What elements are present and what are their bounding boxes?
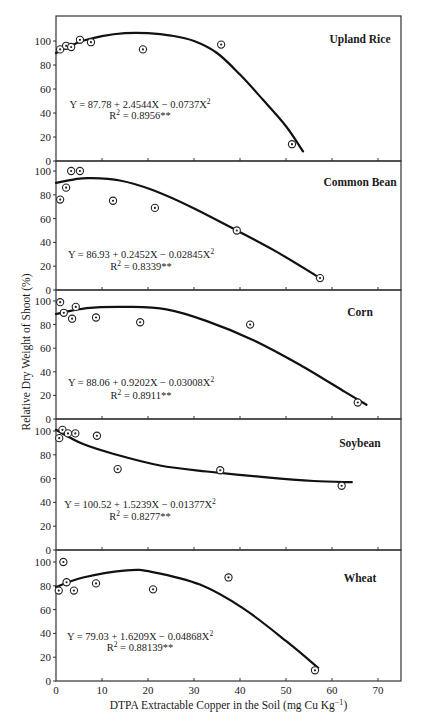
regression-equation: Y = 100.52 + 1.5239X − 0.01377X2: [64, 497, 216, 510]
y-tick-label: 80: [40, 189, 52, 201]
crop-label: Wheat: [344, 572, 377, 584]
y-tick-label: 100: [35, 295, 52, 307]
data-point-marker: [288, 141, 295, 148]
data-point-marker: [56, 435, 63, 442]
data-point-marker: [68, 167, 75, 174]
crop-label: Soybean: [339, 437, 381, 450]
y-tick-label: 20: [40, 389, 52, 401]
panel-common-bean: 020406080100Common BeanY = 86.93 + 0.245…: [35, 161, 402, 296]
y-tick-label: 40: [40, 627, 52, 639]
data-point-marker: [217, 467, 224, 474]
panel-soybean: 020406080100SoybeanY = 100.52 + 1.5239X …: [35, 419, 402, 556]
y-axis-title: Relative Dry Weight of Shoot (%): [20, 273, 33, 430]
crop-label: Common Bean: [323, 176, 397, 188]
regression-equation: Y = 79.03 + 1.6209X − 0.04868X2: [67, 629, 214, 642]
fit-curve: [56, 307, 367, 405]
y-tick-label: 100: [35, 165, 52, 177]
x-tick-label: 30: [189, 684, 201, 696]
data-point-marker: [93, 432, 100, 439]
data-point-marker: [151, 204, 158, 211]
y-tick-label: 100: [35, 425, 52, 437]
r-squared: R2 = 0.8277**: [109, 509, 170, 522]
data-point-marker: [311, 667, 318, 674]
regression-equation: Y = 88.06 + 0.9202X − 0.03008X2: [68, 375, 215, 388]
y-tick-label: 60: [40, 83, 52, 95]
data-point-marker: [247, 321, 254, 328]
r-squared: R2 = 0.88139**: [107, 640, 174, 653]
y-tick-label: 20: [40, 260, 52, 272]
data-point-marker: [137, 319, 144, 326]
y-tick-label: 60: [40, 604, 52, 616]
data-point-marker: [70, 587, 77, 594]
y-tick-label: 0: [46, 413, 52, 425]
y-tick-label: 100: [35, 556, 52, 568]
data-point-marker: [57, 299, 64, 306]
y-tick-label: 0: [46, 675, 52, 687]
y-tick-label: 80: [40, 319, 52, 331]
y-tick-label: 20: [40, 520, 52, 532]
data-point-marker: [55, 587, 62, 594]
crop-label: Upland Rice: [329, 33, 390, 46]
x-tick-label: 70: [373, 684, 385, 696]
data-point-marker: [87, 39, 94, 46]
data-point-marker: [63, 579, 70, 586]
data-point-marker: [109, 197, 116, 204]
x-axis-title: DTPA Extractable Copper in the Soil (mg …: [110, 698, 348, 712]
data-point-marker: [69, 315, 76, 322]
y-tick-label: 80: [40, 580, 52, 592]
data-point-marker: [316, 275, 323, 282]
r-squared: R2 = 0.8956**: [109, 108, 170, 121]
x-tick-label: 60: [327, 684, 339, 696]
y-tick-label: 0: [46, 544, 52, 556]
data-point-marker: [149, 586, 156, 593]
data-point-marker: [76, 36, 83, 43]
plot-frame: [56, 550, 401, 681]
y-tick-label: 40: [40, 366, 52, 378]
data-point-marker: [60, 309, 67, 316]
y-tick-label: 60: [40, 213, 52, 225]
y-tick-label: 40: [40, 107, 52, 119]
r-squared: R2 = 0.8911**: [111, 388, 172, 401]
figure: 020406080100Upland RiceY = 87.78 + 2.454…: [0, 0, 422, 727]
regression-equation: Y = 86.93 + 0.2452X − 0.02845X2: [68, 247, 215, 260]
data-point-marker: [63, 184, 70, 191]
data-point-marker: [114, 465, 121, 472]
panel-corn: 020406080100CornY = 88.06 + 0.9202X − 0.…: [35, 290, 402, 425]
data-point-marker: [57, 196, 64, 203]
x-tick-label: 0: [53, 684, 59, 696]
chart-svg: 020406080100Upland RiceY = 87.78 + 2.454…: [0, 0, 422, 727]
y-tick-label: 20: [40, 131, 52, 143]
panel-wheat: 020406080100WheatY = 79.03 + 1.6209X − 0…: [35, 550, 402, 687]
data-point-marker: [72, 303, 79, 310]
data-point-marker: [139, 46, 146, 53]
y-tick-label: 100: [35, 35, 52, 47]
data-point-marker: [225, 574, 232, 581]
crop-label: Corn: [347, 306, 373, 318]
data-point-marker: [233, 227, 240, 234]
y-tick-label: 40: [40, 236, 52, 248]
data-point-marker: [218, 41, 225, 48]
x-tick-label: 50: [281, 684, 293, 696]
x-tick-label: 40: [235, 684, 247, 696]
fit-curve: [56, 178, 318, 277]
data-point-marker: [76, 167, 83, 174]
x-tick-label: 10: [97, 684, 109, 696]
data-point-marker: [72, 430, 79, 437]
r-squared: R2 = 0.8339**: [110, 259, 171, 272]
y-tick-label: 40: [40, 496, 52, 508]
data-point-marker: [60, 558, 67, 565]
x-tick-label: 20: [143, 684, 155, 696]
y-tick-label: 60: [40, 473, 52, 485]
data-point-marker: [92, 580, 99, 587]
data-point-marker: [338, 482, 345, 489]
y-tick-label: 20: [40, 651, 52, 663]
data-point-marker: [92, 314, 99, 321]
y-tick-label: 80: [40, 59, 52, 71]
panel-upland-rice: 020406080100Upland RiceY = 87.78 + 2.454…: [35, 16, 402, 167]
data-point-marker: [64, 430, 71, 437]
y-tick-label: 80: [40, 449, 52, 461]
regression-equation: Y = 87.78 + 2.4544X − 0.0737X2: [70, 97, 211, 110]
y-tick-label: 60: [40, 342, 52, 354]
data-point-marker: [354, 399, 361, 406]
data-point-marker: [68, 43, 75, 50]
